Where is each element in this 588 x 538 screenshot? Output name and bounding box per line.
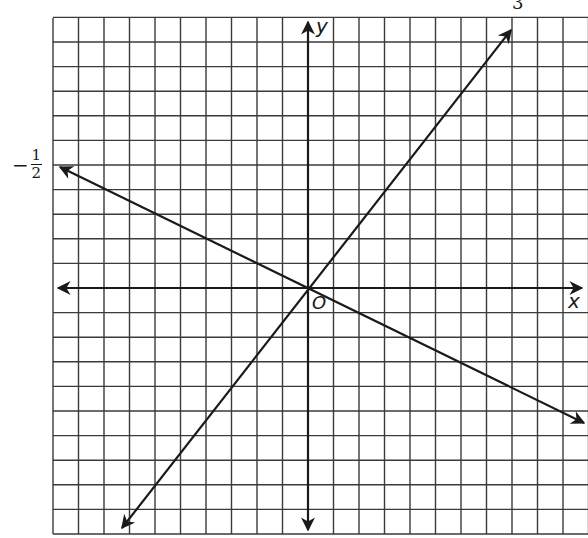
minus-sign: −	[12, 153, 29, 177]
slope-neg-half-label: − 1 2	[12, 148, 42, 181]
origin-label: O	[312, 292, 326, 313]
fraction-denominator: 2	[31, 166, 41, 181]
fraction-numerator: 1	[31, 148, 41, 163]
x-axis-label: x	[568, 289, 580, 313]
slope-3-label: 3	[512, 0, 523, 13]
grid-plot	[0, 0, 588, 538]
y-axis-label: y	[316, 14, 328, 38]
coordinate-plane: y x O 3 − 1 2	[0, 0, 588, 538]
